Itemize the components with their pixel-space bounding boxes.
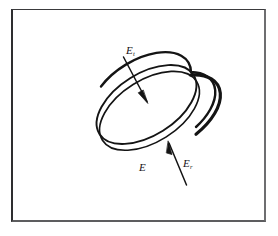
label-E-tangential: Et xyxy=(126,41,135,58)
label-E-base: E xyxy=(139,161,146,173)
figure-frame-border xyxy=(11,9,266,222)
label-E-radial-base: E xyxy=(183,157,190,169)
label-E-radial: Er xyxy=(183,154,193,171)
label-E-radial-subscript: r xyxy=(190,163,193,170)
label-E-tangential-base: E xyxy=(126,44,133,56)
label-E-tangential-subscript: t xyxy=(133,50,135,57)
figure-root: Et E Er xyxy=(0,0,278,236)
label-E: E xyxy=(139,158,146,175)
